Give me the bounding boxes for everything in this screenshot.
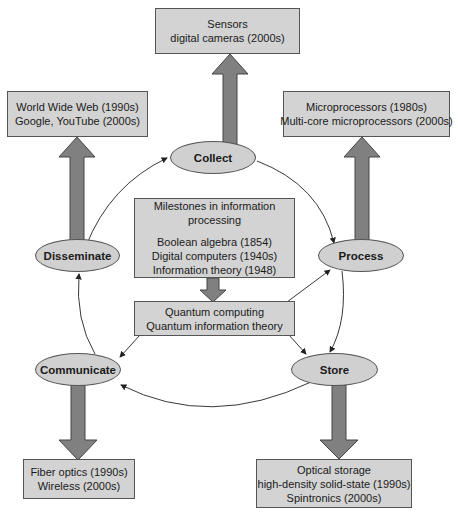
- box-line: Optical storage: [297, 463, 371, 477]
- box-line: World Wide Web (1990s): [16, 100, 138, 114]
- milestones-heading: processing: [188, 213, 241, 227]
- quantum-box: Quantum computing Quantum information th…: [134, 301, 295, 336]
- fiber-box: Fiber optics (1990s) Wireless (2000s): [23, 459, 135, 499]
- node-communicate: Communicate: [35, 353, 121, 386]
- box-line: Fiber optics (1990s): [30, 465, 127, 479]
- node-disseminate: Disseminate: [35, 239, 120, 272]
- box-line: Google, YouTube (2000s): [15, 114, 140, 128]
- box-line: high-density solid-state (1990s): [258, 477, 411, 491]
- big-arrow-down-icon: [200, 278, 226, 302]
- box-line: Digital computers (1940s): [152, 249, 277, 263]
- box-line: Quantum computing: [165, 305, 264, 319]
- big-arrow-down-icon: [59, 385, 97, 460]
- thin-arrow-icon: [330, 271, 344, 352]
- node-process: Process: [318, 239, 404, 272]
- storage-box: Optical storage high-density solid-state…: [256, 459, 412, 508]
- microprocessors-box: Microprocessors (1980s) Multi-core micro…: [283, 91, 450, 137]
- big-arrow-up-icon: [212, 54, 248, 150]
- box-line: digital cameras (2000s): [170, 31, 284, 45]
- box-line: Boolean algebra (1854): [157, 235, 272, 249]
- big-arrow-up-icon: [59, 137, 95, 245]
- sensors-box: Sensors digital cameras (2000s): [155, 8, 300, 54]
- big-arrow-up-icon: [344, 137, 380, 243]
- node-collect: Collect: [170, 141, 256, 174]
- milestones-box: Milestones in information processing Boo…: [134, 198, 295, 278]
- box-line: Information theory (1948): [153, 263, 277, 277]
- thin-arrow-icon: [121, 382, 311, 407]
- big-arrow-down-icon: [320, 385, 358, 459]
- box-line: Multi-core microprocessors (2000s): [280, 114, 452, 128]
- thin-arrow-icon: [289, 335, 306, 354]
- web-box: World Wide Web (1990s) Google, YouTube (…: [7, 91, 148, 137]
- node-store: Store: [291, 353, 378, 386]
- box-line: Quantum information theory: [146, 319, 282, 333]
- box-line: Sensors: [207, 17, 247, 31]
- thin-arrow-icon: [78, 274, 95, 354]
- box-line: Wireless (2000s): [38, 479, 121, 493]
- thin-arrow-icon: [120, 335, 140, 357]
- box-line: Microprocessors (1980s): [306, 100, 427, 114]
- box-line: Spintronics (2000s): [287, 491, 382, 505]
- milestones-heading: Milestones in information: [154, 199, 276, 213]
